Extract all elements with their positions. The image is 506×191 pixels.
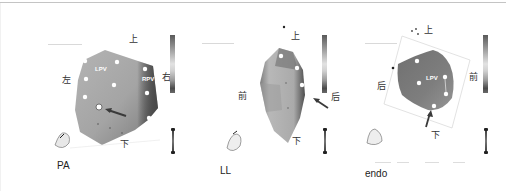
direction-top: 上	[424, 26, 433, 35]
direction-right: 前	[469, 73, 478, 82]
direction-bottom: 下	[431, 131, 440, 140]
direction-bottom: 下	[120, 140, 129, 149]
panel-ll: 上 下 前 后 LL	[190, 0, 340, 191]
direction-left: 后	[377, 82, 386, 91]
scale-bar	[324, 128, 326, 154]
panel-pa: LPV RPV 上 下 左 右 PA	[0, 0, 190, 191]
panel-caption: LL	[220, 165, 231, 176]
pa-map-surface	[0, 0, 190, 191]
ll-map-surface	[190, 0, 340, 191]
direction-right: 后	[331, 93, 340, 102]
direction-left: 左	[62, 76, 71, 85]
direction-top: 上	[291, 32, 300, 41]
panel-caption: PA	[57, 160, 70, 171]
direction-bottom: 下	[292, 137, 301, 146]
label-lpv: LPV	[426, 75, 438, 81]
panel-caption: endo	[365, 168, 387, 179]
scale-bar	[172, 128, 174, 154]
endo-map-surface	[340, 0, 506, 191]
direction-top: 上	[129, 35, 138, 44]
direction-left: 前	[238, 92, 247, 101]
colorbar	[483, 35, 488, 93]
panel-endo: LPV 上 下 后 前 endo	[340, 0, 506, 191]
scale-bar	[485, 128, 487, 154]
label-rpv: RPV	[142, 76, 154, 82]
label-lpv: LPV	[95, 66, 107, 72]
colorbar	[322, 35, 327, 93]
colorbar	[170, 35, 175, 93]
